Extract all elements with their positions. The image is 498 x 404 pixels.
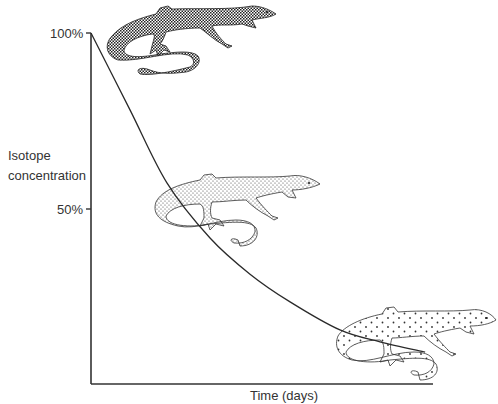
- x-axis-title: Time (days): [250, 388, 318, 403]
- y-tick-label-100: 100%: [50, 26, 83, 41]
- lizard-high-concentration: [107, 6, 276, 75]
- lizard-low-concentration: [337, 307, 496, 380]
- y-axis-title-line1: Isotope: [8, 148, 51, 163]
- y-tick-label-50: 50%: [57, 202, 83, 217]
- y-axis-title-line2: concentration: [8, 168, 86, 183]
- lizard-medium-concentration: [155, 174, 320, 246]
